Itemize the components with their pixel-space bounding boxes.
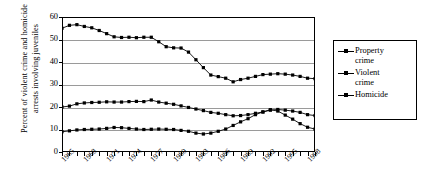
data-point-marker bbox=[202, 109, 205, 112]
y-axis-ticks: 0102030405060 bbox=[0, 0, 62, 195]
data-point-marker bbox=[306, 113, 309, 116]
data-point-marker bbox=[209, 132, 212, 135]
data-point-marker bbox=[127, 36, 130, 39]
data-point-marker bbox=[90, 101, 93, 104]
data-point-marker bbox=[165, 102, 168, 105]
data-point-marker bbox=[202, 132, 205, 135]
y-tick-label: 30 bbox=[50, 80, 58, 88]
data-point-marker bbox=[105, 32, 108, 35]
data-point-marker bbox=[157, 127, 160, 130]
data-point-marker bbox=[246, 77, 249, 80]
x-tick-mark bbox=[77, 152, 78, 156]
data-point-marker bbox=[68, 24, 71, 27]
data-point-marker bbox=[239, 114, 242, 117]
legend-item-violent-crime: Violent crime bbox=[337, 68, 413, 87]
data-point-marker bbox=[135, 36, 138, 39]
data-point-marker bbox=[313, 127, 315, 130]
data-point-marker bbox=[217, 130, 220, 133]
data-point-marker bbox=[142, 128, 145, 131]
legend-marker-icon bbox=[337, 69, 355, 78]
x-tick-mark bbox=[99, 152, 100, 156]
data-point-marker bbox=[194, 132, 197, 135]
data-point-marker bbox=[313, 114, 315, 117]
data-point-marker bbox=[62, 105, 64, 108]
data-point-marker bbox=[209, 73, 212, 76]
chart-legend: Property crime Violent crime Homicide bbox=[333, 40, 417, 120]
data-point-marker bbox=[239, 120, 242, 123]
legend-item-property-crime: Property crime bbox=[337, 46, 413, 65]
data-point-marker bbox=[179, 46, 182, 49]
data-point-marker bbox=[187, 51, 190, 54]
data-point-marker bbox=[90, 128, 93, 131]
data-point-marker bbox=[150, 36, 153, 39]
data-point-marker bbox=[127, 100, 130, 103]
data-point-marker bbox=[120, 100, 123, 103]
data-point-marker bbox=[172, 103, 175, 106]
y-tick-label: 60 bbox=[50, 13, 58, 21]
data-point-marker bbox=[299, 122, 302, 125]
data-point-marker bbox=[98, 29, 101, 32]
data-point-marker bbox=[269, 73, 272, 76]
data-point-marker bbox=[75, 128, 78, 131]
data-point-marker bbox=[232, 80, 235, 83]
data-point-marker bbox=[284, 73, 287, 76]
data-point-marker bbox=[165, 128, 168, 131]
x-tick-mark bbox=[233, 152, 234, 156]
data-point-marker bbox=[194, 58, 197, 61]
y-tick-label: 0 bbox=[54, 148, 58, 156]
data-point-marker bbox=[313, 77, 315, 80]
data-point-marker bbox=[165, 45, 168, 48]
data-point-marker bbox=[68, 129, 71, 132]
data-point-marker bbox=[299, 111, 302, 114]
data-point-marker bbox=[254, 113, 257, 116]
data-series-layer bbox=[62, 17, 315, 152]
data-point-marker bbox=[112, 126, 115, 129]
x-tick-mark bbox=[166, 152, 167, 156]
y-tick-label: 20 bbox=[50, 103, 58, 111]
data-point-marker bbox=[306, 126, 309, 129]
data-point-marker bbox=[209, 111, 212, 114]
data-point-marker bbox=[90, 26, 93, 29]
data-point-marker bbox=[291, 73, 294, 76]
data-point-marker bbox=[172, 46, 175, 49]
data-point-marker bbox=[217, 75, 220, 78]
data-point-marker bbox=[232, 124, 235, 127]
x-tick-mark bbox=[144, 152, 145, 156]
data-point-marker bbox=[224, 77, 227, 80]
legend-item-homicide: Homicide bbox=[337, 90, 413, 100]
data-point-marker bbox=[75, 23, 78, 26]
chart-container: Percent of violent crime and homicide ar… bbox=[0, 0, 422, 195]
data-point-marker bbox=[284, 114, 287, 117]
data-point-marker bbox=[239, 78, 242, 81]
data-point-marker bbox=[269, 108, 272, 111]
data-point-marker bbox=[261, 73, 264, 76]
data-point-marker bbox=[75, 102, 78, 105]
legend-marker-icon bbox=[337, 91, 355, 100]
x-tick-mark bbox=[211, 152, 212, 156]
x-tick-mark bbox=[278, 152, 279, 156]
data-point-marker bbox=[135, 100, 138, 103]
data-point-marker bbox=[112, 35, 115, 38]
data-point-marker bbox=[246, 113, 249, 116]
legend-label: Violent crime bbox=[355, 68, 380, 87]
data-point-marker bbox=[291, 118, 294, 121]
legend-label: Property crime bbox=[355, 46, 384, 65]
data-point-marker bbox=[306, 77, 309, 80]
data-point-marker bbox=[179, 104, 182, 107]
data-point-marker bbox=[68, 105, 71, 108]
data-point-marker bbox=[217, 112, 220, 115]
data-point-marker bbox=[299, 75, 302, 78]
y-tick-label: 50 bbox=[50, 35, 58, 43]
data-point-marker bbox=[157, 100, 160, 103]
data-point-marker bbox=[276, 72, 279, 75]
data-point-marker bbox=[105, 100, 108, 103]
data-point-marker bbox=[62, 130, 64, 133]
data-point-marker bbox=[157, 40, 160, 43]
data-point-marker bbox=[202, 66, 205, 69]
legend-marker-icon bbox=[337, 47, 355, 56]
y-tick-label: 10 bbox=[50, 125, 58, 133]
data-point-marker bbox=[83, 128, 86, 131]
data-point-marker bbox=[98, 101, 101, 104]
data-point-marker bbox=[194, 107, 197, 110]
data-point-marker bbox=[112, 100, 115, 103]
